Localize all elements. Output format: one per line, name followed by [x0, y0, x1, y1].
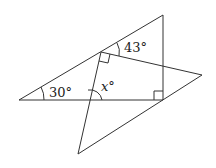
- segment-pr: [101, 52, 202, 75]
- label-43-degrees: 43°: [124, 40, 147, 55]
- segment-rd: [78, 75, 202, 154]
- right-angle-mark-c: [154, 91, 163, 100]
- label-x-degrees: x°: [101, 79, 115, 94]
- label-30-degrees: 30°: [49, 85, 72, 100]
- angle-arc-30: [41, 87, 44, 100]
- angle-arc-43: [117, 43, 119, 56]
- geometry-diagram: 30° 43° x°: [0, 0, 216, 168]
- segment-pd: [78, 52, 101, 154]
